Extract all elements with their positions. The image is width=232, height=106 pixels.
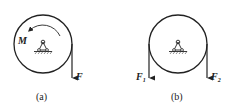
moment-label: M	[17, 35, 28, 46]
caption-a: (a)	[36, 91, 47, 103]
figure-a: M F (a)	[14, 15, 83, 103]
force-label-f2: F2	[210, 71, 221, 83]
moment-arrow	[30, 25, 60, 36]
caption-b: (b)	[171, 91, 183, 103]
force-label-f1: F1	[135, 71, 146, 83]
pin-support	[34, 40, 52, 54]
pulley-diagram: M F (a) F1 F2 (b)	[0, 0, 232, 106]
figure-b: F1 F2 (b)	[135, 15, 221, 103]
pin-support	[169, 40, 187, 54]
force-label-f: F	[75, 71, 83, 82]
